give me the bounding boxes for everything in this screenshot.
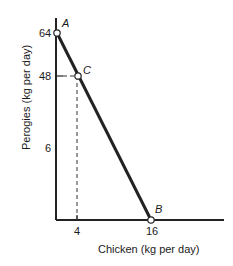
- y-tick-6: 6: [45, 142, 51, 154]
- point-label-b: B: [155, 203, 162, 215]
- x-tick-4: 4: [74, 225, 80, 237]
- y-tick-64: 64: [39, 27, 51, 39]
- y-tick-48: 48: [39, 70, 51, 82]
- ppf-chart: A C B 64 48 6 4 16 Chicken (kg per day) …: [0, 0, 233, 266]
- point-label-c: C: [83, 64, 91, 76]
- x-axis-label: Chicken (kg per day): [98, 243, 200, 255]
- ppf-line: [57, 33, 151, 220]
- point-b: [148, 217, 154, 223]
- point-a: [54, 30, 60, 36]
- x-tick-16: 16: [146, 225, 158, 237]
- point-label-a: A: [61, 17, 69, 29]
- y-axis-label: Perogies (kg per day): [20, 45, 32, 150]
- point-c: [75, 73, 81, 79]
